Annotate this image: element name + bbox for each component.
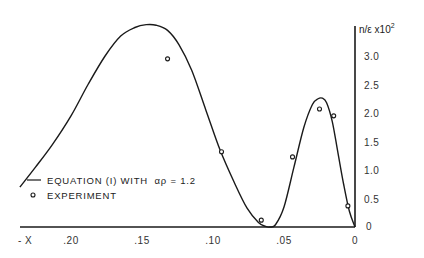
experiment-point bbox=[332, 114, 336, 118]
y-axis-label-text: n/ε x10 bbox=[359, 24, 391, 35]
x-tick-labels: .20.15.10.050 bbox=[63, 235, 358, 246]
legend-label-equation-math: αρ = 1.2 bbox=[154, 175, 195, 186]
y-tick-label: 3.0 bbox=[364, 51, 379, 62]
y-axis-label-exponent: 2 bbox=[391, 22, 395, 29]
x-tick-label: .15 bbox=[134, 235, 149, 246]
y-axis-label: n/ε x102 bbox=[359, 22, 395, 35]
y-tick-labels: 00.51.01.52.02.53.0 bbox=[364, 51, 379, 232]
chart: .20.15.10.050 00.51.01.52.02.53.0 - X n/… bbox=[0, 0, 424, 258]
legend-item-experiment: EXPERIMENT bbox=[31, 190, 117, 201]
y-tick-label: 0.5 bbox=[364, 194, 379, 205]
legend-circle-swatch bbox=[31, 193, 35, 197]
series-experiment-points bbox=[166, 57, 350, 222]
legend: EQUATION (I) WITH αρ = 1.2 EXPERIMENT bbox=[27, 175, 196, 201]
legend-label-experiment: EXPERIMENT bbox=[47, 190, 117, 201]
legend-item-equation: EQUATION (I) WITH αρ = 1.2 bbox=[27, 175, 196, 186]
x-tick-label: .20 bbox=[63, 235, 78, 246]
experiment-point bbox=[259, 218, 263, 222]
x-tick-label: .05 bbox=[276, 235, 291, 246]
y-tick-label: 0 bbox=[366, 221, 372, 232]
y-tick-label: 2.5 bbox=[364, 80, 379, 91]
experiment-point bbox=[220, 150, 224, 154]
y-tick-label: 1.0 bbox=[364, 165, 379, 176]
x-axis-label: - X bbox=[18, 235, 32, 246]
x-tick-label: 0 bbox=[352, 235, 358, 246]
x-tick-label: .10 bbox=[205, 235, 220, 246]
experiment-point bbox=[166, 57, 170, 61]
legend-label-equation: EQUATION (I) WITH αρ = 1.2 bbox=[47, 175, 196, 186]
experiment-point bbox=[318, 107, 322, 111]
y-tick-label: 2.0 bbox=[364, 108, 379, 119]
legend-label-equation-text: EQUATION (I) WITH bbox=[47, 175, 148, 186]
experiment-point bbox=[291, 155, 295, 159]
y-tick-label: 1.5 bbox=[364, 137, 379, 148]
experiment-point bbox=[346, 204, 350, 208]
